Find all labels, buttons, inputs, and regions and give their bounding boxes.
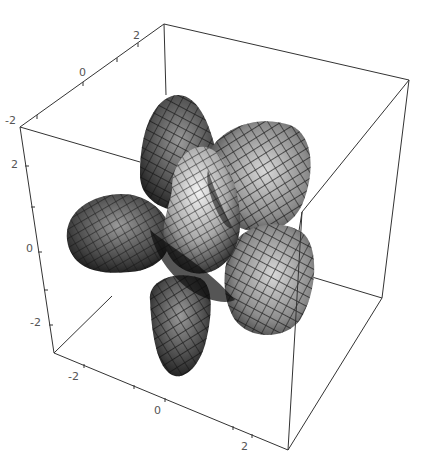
left-axis-label: 0 xyxy=(26,242,33,255)
lobed-surface xyxy=(67,95,314,376)
bottom-axis-labels: -2 0 2 xyxy=(68,370,248,453)
top-axis-label: -2 xyxy=(5,114,16,127)
top-axis-labels: -2 0 2 xyxy=(5,29,140,127)
left-axis-label: -2 xyxy=(30,316,41,329)
top-axis-label: 2 xyxy=(133,29,140,42)
bottom-axis-ticks xyxy=(84,364,252,438)
surface-plot: -2 0 2 2 0 -2 -2 0 2 xyxy=(0,0,427,465)
bottom-axis-label: 2 xyxy=(241,440,248,453)
top-axis-ticks xyxy=(37,43,138,119)
left-axis-labels: 2 0 -2 xyxy=(11,158,41,329)
bottom-axis-label: 0 xyxy=(154,404,161,417)
top-axis-label: 0 xyxy=(79,66,86,79)
bottom-axis-label: -2 xyxy=(68,370,79,383)
left-axis-label: 2 xyxy=(11,158,18,171)
